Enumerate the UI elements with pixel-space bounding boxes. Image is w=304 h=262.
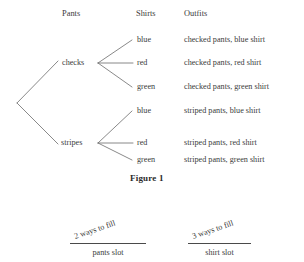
outfit-row: striped pants, blue shirt — [184, 107, 260, 115]
slot-name-pants: pants slot — [70, 249, 146, 257]
branch-stripes-to-green — [98, 143, 132, 160]
figure-caption: Figure 1 — [130, 174, 164, 183]
branch-root-to-stripes — [17, 103, 58, 144]
column-header-outfits: Outfits — [184, 10, 207, 18]
outfit-row: striped pants, green shirt — [184, 156, 265, 164]
figure-page: Pants Shirts Outfits checks stripes blue… — [0, 0, 304, 262]
branch-checks-to-blue — [98, 40, 132, 63]
tree-node-shirt-red-1: red — [137, 59, 147, 67]
outfit-row: checked pants, blue shirt — [184, 36, 265, 44]
tree-node-shirt-blue-2: blue — [137, 107, 151, 115]
tree-node-shirt-blue-1: blue — [137, 36, 151, 44]
outfit-row: checked pants, red shirt — [184, 59, 261, 67]
branch-root-to-checks — [17, 61, 58, 103]
outfit-row: striped pants, red shirt — [184, 139, 257, 147]
column-header-shirts: Shirts — [136, 10, 156, 18]
slot-ways-label-shirt: 3 ways to fill — [191, 219, 234, 241]
branch-stripes-to-blue — [98, 111, 132, 143]
tree-node-shirt-green-2: green — [137, 156, 155, 164]
column-header-pants: Pants — [62, 10, 80, 18]
tree-node-pants-checks: checks — [62, 59, 84, 67]
tree-node-shirt-red-2: red — [137, 139, 147, 147]
branch-checks-to-green — [98, 63, 132, 87]
slot-rule-shirt — [188, 243, 251, 244]
slot-name-shirt: shirt slot — [188, 249, 251, 257]
outfit-row: checked pants, green shirt — [184, 83, 269, 91]
tree-node-pants-stripes: stripes — [61, 139, 82, 147]
tree-node-shirt-green-1: green — [137, 83, 155, 91]
slot-ways-label-pants: 2 ways to fill — [73, 219, 116, 241]
slot-rule-pants — [70, 243, 146, 244]
